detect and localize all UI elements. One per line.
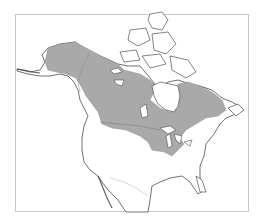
north-america-map [0, 0, 264, 223]
